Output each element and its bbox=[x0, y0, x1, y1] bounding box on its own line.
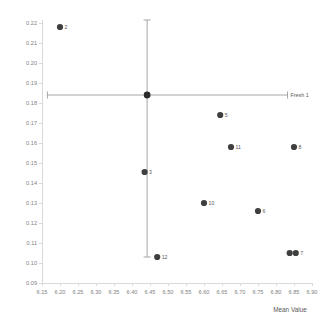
scatter-point[interactable] bbox=[255, 208, 261, 214]
plot-area: 0.09 0.10 0.11 0.12 0.13 0.14 0.15 0.16 … bbox=[0, 0, 328, 319]
x-tick-label: 6.85 bbox=[289, 289, 300, 295]
x-tick-label: 6.30 bbox=[91, 289, 102, 295]
y-tick-label: 0.16 bbox=[26, 140, 37, 146]
y-tick-label: 0.17 bbox=[26, 120, 37, 126]
scatter-point-label: 10 bbox=[209, 200, 215, 206]
x-tick-label: 6.40 bbox=[127, 289, 138, 295]
scatter-point[interactable] bbox=[217, 112, 223, 118]
y-axis-ticks: 0.09 0.10 0.11 0.12 0.13 0.14 0.15 0.16 … bbox=[26, 20, 42, 286]
scatter-point-label: 5 bbox=[225, 112, 228, 118]
scatter-chart: 0.09 0.10 0.11 0.12 0.13 0.14 0.15 0.16 … bbox=[0, 0, 328, 319]
y-tick-label: 0.10 bbox=[26, 260, 37, 266]
y-tick-label: 0.13 bbox=[26, 200, 37, 206]
scatter-point-label: 3 bbox=[149, 169, 152, 175]
x-tick-label: 6.75 bbox=[253, 289, 264, 295]
errorbar-fresh-1: Fresh 1 bbox=[47, 20, 308, 257]
y-tick-label: 0.22 bbox=[26, 20, 37, 26]
y-tick-label: 0.21 bbox=[26, 40, 37, 46]
y-tick-label: 0.18 bbox=[26, 100, 37, 106]
scatter-point[interactable] bbox=[201, 200, 207, 206]
x-tick-label: 6.80 bbox=[271, 289, 282, 295]
y-tick-label: 0.14 bbox=[26, 180, 37, 186]
scatter-point[interactable] bbox=[154, 254, 160, 260]
x-axis-ticks: 6.15 6.20 6.25 6.30 6.35 6.40 6.45 6.50 … bbox=[37, 283, 318, 295]
y-tick-label: 0.19 bbox=[26, 80, 37, 86]
x-tick-label: 6.15 bbox=[37, 289, 48, 295]
x-tick-label: 6.20 bbox=[55, 289, 66, 295]
x-tick-label: 6.55 bbox=[181, 289, 192, 295]
scatter-point[interactable] bbox=[57, 24, 63, 30]
scatter-point-label: 7 bbox=[300, 250, 303, 256]
series-label-fresh-1: Fresh 1 bbox=[291, 92, 309, 98]
scatter-point-label: 8 bbox=[299, 144, 302, 150]
y-tick-label: 0.20 bbox=[26, 60, 37, 66]
y-tick-label: 0.11 bbox=[27, 240, 37, 246]
x-tick-label: 6.25 bbox=[73, 289, 84, 295]
y-tick-label: 0.15 bbox=[26, 160, 37, 166]
y-tick-label: 0.12 bbox=[26, 220, 37, 226]
scatter-point-label: 11 bbox=[236, 144, 241, 150]
x-tick-label: 6.35 bbox=[109, 289, 120, 295]
x-tick-label: 6.45 bbox=[145, 289, 156, 295]
scatter-point[interactable] bbox=[228, 144, 234, 150]
x-tick-label: 6.90 bbox=[307, 289, 318, 295]
scatter-point[interactable] bbox=[287, 250, 293, 256]
data-points: 2511831061297 bbox=[57, 24, 303, 260]
scatter-point-label: 12 bbox=[162, 254, 168, 260]
scatter-point[interactable] bbox=[291, 144, 297, 150]
scatter-point-label: 6 bbox=[263, 208, 266, 214]
x-tick-label: 6.60 bbox=[199, 289, 210, 295]
y-tick-label: 0.09 bbox=[26, 280, 37, 286]
mean-point-marker[interactable] bbox=[144, 92, 151, 99]
scatter-point[interactable] bbox=[293, 250, 299, 256]
x-tick-label: 6.50 bbox=[163, 289, 174, 295]
x-tick-label: 6.70 bbox=[235, 289, 246, 295]
x-axis-title: Mean Value bbox=[273, 306, 307, 313]
scatter-point[interactable] bbox=[142, 169, 148, 175]
x-tick-label: 6.65 bbox=[217, 289, 228, 295]
scatter-point-label: 2 bbox=[65, 24, 68, 30]
